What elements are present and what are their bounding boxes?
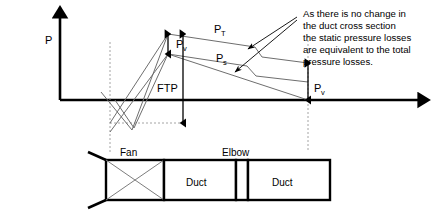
velocity-pressure-dimension-right: P v	[308, 63, 325, 100]
discharge-to-datum-curve	[168, 54, 308, 100]
pressure-curves	[101, 34, 308, 132]
leader-to-total-pressure-step	[248, 17, 297, 49]
annotation-line-5: pressure losses.	[303, 56, 373, 67]
figure-canvas: P P v FTP	[0, 0, 434, 220]
fan-label: Fan	[120, 147, 137, 158]
duct-section-1-label: Duct	[186, 177, 207, 188]
annotation-line-1: As there is no change in	[303, 8, 406, 19]
annotation-leaders	[235, 17, 297, 72]
pressure-diagram-svg: P P v FTP	[0, 0, 434, 220]
leader-to-static-pressure-step	[235, 20, 297, 72]
curve-name-labels: P T P s	[214, 23, 227, 67]
y-axis-label: P	[45, 34, 52, 46]
annotation-line-2: the duct cross section	[303, 20, 396, 31]
annotation-line-4: are equivalent to the total	[303, 44, 411, 55]
duct-system-schematic: Fan Duct Elbow Duct	[88, 147, 330, 208]
static-pressure-curve	[110, 54, 308, 132]
pv-right-subscript: v	[321, 88, 325, 97]
total-pressure-subscript: T	[221, 29, 226, 38]
velocity-pressure-dimension-left: P v	[168, 34, 187, 54]
static-pressure-subscript: s	[223, 58, 227, 67]
ftp-label: FTP	[157, 82, 178, 94]
reference-lines	[110, 36, 308, 152]
elbow-section	[236, 160, 248, 200]
annotation-line-3: the static pressure losses	[303, 32, 411, 43]
fan-inlet-flare-top	[88, 152, 106, 160]
duct-section-2-label: Duct	[272, 177, 293, 188]
fan-inlet-flare-bottom	[88, 200, 106, 208]
elbow-label: Elbow	[222, 147, 250, 158]
annotation-text-block: As there is no change in the duct cross …	[303, 8, 411, 67]
